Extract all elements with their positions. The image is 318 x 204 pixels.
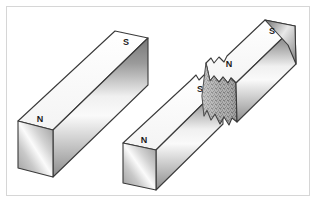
broken-magnet-upper-right-piece: N S bbox=[202, 20, 296, 125]
intact-magnet-s-label: S bbox=[123, 37, 129, 47]
lower-piece-end-face bbox=[123, 143, 156, 190]
magnet-figure: N S N S bbox=[0, 0, 318, 204]
intact-magnet-end-face bbox=[18, 121, 53, 177]
lower-piece-n-label: N bbox=[141, 135, 148, 145]
intact-magnet-n-label: N bbox=[37, 114, 44, 124]
upper-piece-n-label: N bbox=[226, 59, 233, 69]
upper-piece-s-label: S bbox=[269, 26, 275, 36]
illustration-canvas: N S N S bbox=[0, 0, 318, 204]
